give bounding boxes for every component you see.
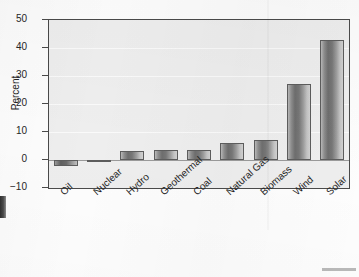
edge-scan-artifact [0, 196, 6, 218]
y-tick-mark [42, 103, 48, 104]
bar-solar[interactable] [320, 40, 344, 160]
y-tick-label: 50 [16, 14, 27, 24]
x-axis: OilNuclearHydroGeothermalCoalNatural Gas… [0, 189, 359, 277]
y-tick-mark [42, 19, 48, 20]
y-axis-title: Percent [11, 58, 21, 128]
bar-oil[interactable] [54, 160, 78, 166]
y-tick-mark [42, 131, 48, 132]
y-tick-mark [42, 187, 48, 188]
y-tick-label: 0 [21, 154, 27, 164]
gridline [49, 76, 349, 77]
bar-natural-gas[interactable] [220, 143, 244, 160]
bar-geothermal[interactable] [154, 150, 178, 160]
y-tick-label: 40 [16, 42, 27, 52]
chart-figure: 50403020100−10 Percent OilNuclearHydroGe… [0, 0, 359, 277]
gridline [49, 48, 349, 49]
page-rule-artifact [322, 268, 356, 271]
bar-nuclear[interactable] [87, 160, 111, 162]
y-tick-mark [42, 47, 48, 48]
y-tick-mark [42, 159, 48, 160]
y-tick-mark [42, 75, 48, 76]
bar-hydro[interactable] [120, 151, 144, 160]
bar-wind[interactable] [287, 84, 311, 160]
